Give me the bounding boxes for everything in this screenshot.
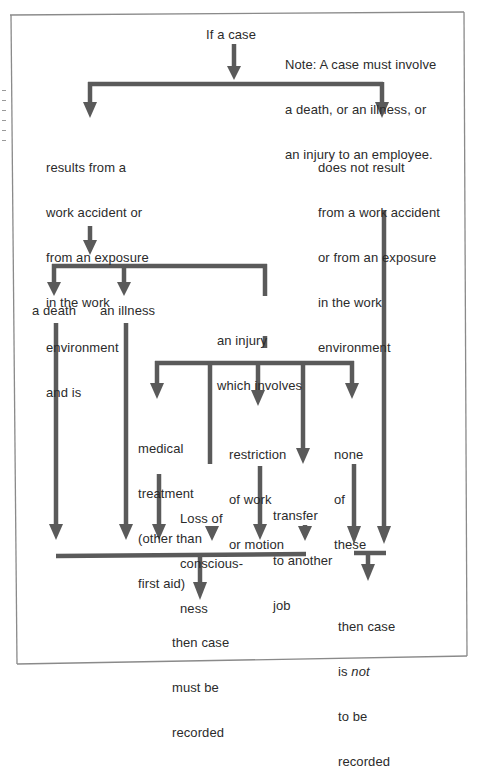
branch-line: work accident or [46, 205, 149, 220]
transfer-line: to another [273, 553, 333, 568]
restriction-line: restriction [229, 447, 286, 462]
branch-line: in the work [318, 295, 440, 310]
not-recorded-line: then case [338, 619, 395, 634]
injury-transfer: transfer to another job [273, 478, 333, 628]
note-line: a death, or an illness, or [285, 102, 436, 117]
injury-line: an injury [217, 333, 302, 348]
outcome-injury: an injury which involves [217, 303, 302, 408]
injury-none-of-these: none of these [334, 417, 366, 567]
branch-line: from an exposure [46, 250, 149, 265]
outcome-illness: an illness [100, 303, 155, 318]
branch-work-related: results from a work accident or from an … [46, 130, 149, 415]
not-recorded-line: to be [338, 709, 395, 724]
medical-line: medical [138, 441, 202, 456]
arrow-start [227, 44, 241, 80]
transfer-line: transfer [273, 508, 333, 523]
branch-line: from a work accident [318, 205, 440, 220]
branch-line: and is [46, 385, 149, 400]
none-line: none [334, 447, 366, 462]
outcome-death: a death [32, 303, 76, 318]
result-not-recorded: then case is not to be recorded [338, 589, 395, 770]
branch-not-work-related: does not result from a work accident or … [318, 130, 440, 370]
branch-line: environment [46, 340, 149, 355]
none-line: these [334, 537, 366, 552]
injury-line: which involves [217, 378, 302, 393]
not-emphasis: not [351, 664, 369, 679]
result-must-be-recorded: then case must be recorded [172, 605, 229, 755]
branch-line: or from an exposure [318, 250, 440, 265]
not-recorded-prefix: is [338, 664, 351, 679]
branch-line: environment [318, 340, 440, 355]
recorded-line: then case [172, 635, 229, 650]
note-line: Note: A case must involve [285, 57, 436, 72]
recorded-line: must be [172, 680, 229, 695]
not-recorded-line: recorded [338, 754, 395, 769]
recorded-line: recorded [172, 725, 229, 740]
start-label: If a case [206, 27, 256, 42]
branch-line: does not result [318, 160, 440, 175]
none-line: of [334, 492, 366, 507]
branch-line: results from a [46, 160, 149, 175]
not-recorded-line: is not [338, 664, 395, 679]
transfer-line: job [273, 598, 333, 613]
